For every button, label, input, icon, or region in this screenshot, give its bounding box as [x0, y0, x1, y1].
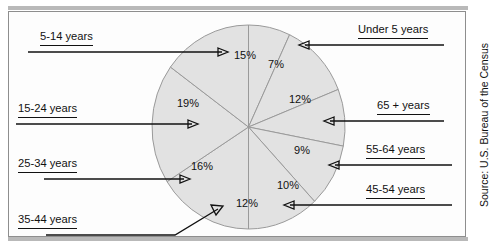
slice-percent-label: 16%: [191, 160, 213, 172]
slice-percent-label: 12%: [289, 93, 311, 105]
callout-label-25-34: 25-34 years: [18, 157, 77, 173]
callout-label-45-54: 45-54 years: [366, 183, 425, 199]
slice-percent-label: 19%: [177, 97, 199, 109]
callout-label-15-24: 15-24 years: [18, 102, 77, 118]
slice-percent-label: 7%: [268, 58, 284, 70]
slice-percent-label: 10%: [277, 179, 299, 191]
callout-label-5-14: 5-14 years: [40, 30, 93, 46]
pie-chart-figure: 7%12%9%10%12%16%19%15% 5-14 years 15-24 …: [0, 0, 498, 248]
callout-label-65-plus: 65 + years: [377, 99, 430, 115]
slice-percent-label: 9%: [294, 144, 310, 156]
callout-label-under-5: Under 5 years: [358, 23, 428, 39]
callout-label-35-44: 35-44 years: [18, 213, 77, 229]
source-note-container: Source: U.S. Bureau of the Census: [471, 6, 497, 244]
slice-percent-label: 12%: [236, 197, 258, 209]
source-note: Source: U.S. Bureau of the Census: [478, 43, 490, 207]
slice-percent-label: 15%: [234, 49, 256, 61]
callout-label-55-64: 55-64 years: [366, 143, 425, 159]
